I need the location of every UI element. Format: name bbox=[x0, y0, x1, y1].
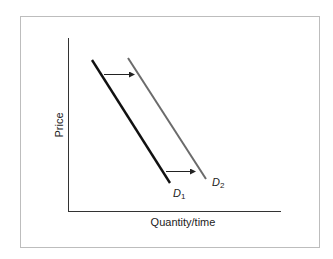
demand-shift-diagram: Price Quantity/time D1 D2 bbox=[0, 0, 333, 259]
x-axis-label: Quantity/time bbox=[151, 216, 216, 228]
curve-d1-label: D1 bbox=[173, 187, 186, 201]
curve-d2 bbox=[128, 58, 206, 179]
curve-d1 bbox=[92, 60, 170, 183]
curve-d2-label: D2 bbox=[212, 176, 225, 190]
y-axis-label: Price bbox=[53, 112, 65, 137]
